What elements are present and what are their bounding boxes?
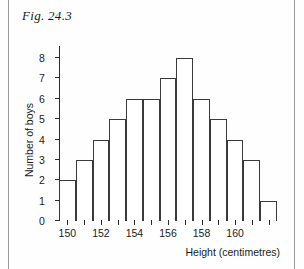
histogram-bar	[176, 58, 193, 221]
y-axis-tick-label: 3	[39, 154, 52, 166]
x-axis-tick-label: 156	[159, 227, 177, 239]
histogram-bar	[193, 99, 210, 221]
x-axis-tick	[235, 220, 236, 225]
histogram-bar	[210, 119, 227, 221]
y-axis-tick	[55, 98, 60, 99]
x-axis-tick	[168, 220, 169, 225]
x-axis-tick-label: 154	[126, 227, 144, 239]
y-axis-title-text: Number of boys	[23, 102, 35, 176]
x-axis-tick	[202, 220, 203, 225]
y-axis-tick-label: 5	[39, 113, 52, 125]
histogram-bar	[126, 99, 143, 221]
x-axis-tick-label: 152	[92, 227, 110, 239]
x-axis-tick-label: 160	[226, 227, 244, 239]
x-axis-title-text: Height (centimetres)	[185, 246, 280, 258]
x-axis-tick	[118, 220, 119, 225]
plot-area: 012345678 150152154156158160	[59, 58, 277, 221]
y-axis-tick	[55, 220, 60, 221]
x-axis-tick-label: 150	[59, 227, 77, 239]
y-axis-tick-label: 0	[39, 215, 52, 227]
figure-page: Fig. 24.3 Number of boys 012345678 15015…	[0, 0, 304, 269]
y-axis-tick	[55, 77, 60, 78]
y-axis-tick	[55, 118, 60, 119]
y-axis-tick	[55, 159, 60, 160]
histogram-bar	[59, 180, 76, 221]
histogram-bar	[93, 140, 110, 222]
y-axis-tick-label: 2	[39, 174, 52, 186]
x-axis-tick	[218, 220, 219, 225]
x-axis-tick	[134, 220, 135, 225]
y-axis-tick	[55, 139, 60, 140]
x-axis-title: Height (centimetres)	[0, 246, 304, 258]
histogram-bar	[143, 99, 160, 221]
x-axis-tick	[185, 220, 186, 225]
y-axis-tick	[55, 179, 60, 180]
histogram-bar	[243, 160, 260, 221]
y-axis-tick-label: 1	[39, 195, 52, 207]
x-axis-tick	[101, 220, 102, 225]
y-axis-tick-label: 4	[39, 134, 52, 146]
x-axis-tick-label: 158	[193, 227, 211, 239]
histogram-bar	[160, 78, 177, 221]
y-axis-title: Number of boys	[22, 58, 36, 221]
y-axis-tick-label: 7	[39, 72, 52, 84]
y-axis-tick-label: 6	[39, 93, 52, 105]
y-axis-tick	[55, 57, 60, 58]
histogram-bar	[227, 140, 244, 222]
x-axis-tick	[151, 220, 152, 225]
histogram-bar	[109, 119, 126, 221]
histogram-bar	[260, 201, 277, 221]
histogram-chart: Number of boys 012345678 150152154156158…	[0, 0, 304, 269]
y-axis-tick-label: 8	[39, 52, 52, 64]
x-axis-tick	[84, 220, 85, 225]
x-axis-tick	[269, 220, 270, 225]
x-axis-tick	[67, 220, 68, 225]
x-axis-tick	[252, 220, 253, 225]
y-axis-tick	[55, 200, 60, 201]
histogram-bar	[76, 160, 93, 221]
